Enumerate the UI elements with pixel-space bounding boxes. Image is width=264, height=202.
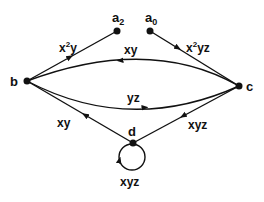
graph-diagram: b c d a2 a0 x2y x2yz xy yz xyz xy xyz bbox=[0, 0, 264, 202]
edge-label-b-c: yz bbox=[127, 91, 140, 105]
node-b bbox=[24, 78, 31, 85]
edge-b-a2 bbox=[27, 31, 117, 81]
node-label-c: c bbox=[246, 79, 253, 94]
node-c bbox=[236, 83, 243, 90]
node-a0 bbox=[147, 28, 154, 35]
node-label-a2: a2 bbox=[112, 10, 124, 27]
node-label-d: d bbox=[128, 124, 136, 139]
edge-label-c-d: xyz bbox=[188, 118, 207, 132]
node-d bbox=[130, 140, 137, 147]
edge-c-d bbox=[133, 86, 239, 143]
edge-label-d-loop: xyz bbox=[120, 175, 139, 189]
edge-d-b bbox=[27, 81, 133, 143]
edge-label-c-b: xy bbox=[124, 43, 138, 57]
edge-label-a0-c: x2yz bbox=[186, 40, 210, 55]
edge-d-loop bbox=[119, 144, 145, 170]
edge-label-b-a2: x2y bbox=[59, 40, 77, 55]
node-label-b: b bbox=[10, 74, 18, 89]
node-label-a0: a0 bbox=[145, 10, 157, 27]
edge-label-d-b: xy bbox=[57, 116, 71, 130]
node-a2 bbox=[114, 28, 121, 35]
